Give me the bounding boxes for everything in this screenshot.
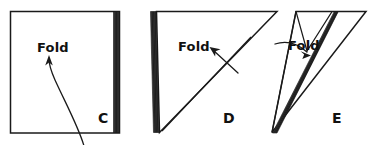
panel-label-d: D	[223, 110, 235, 126]
panel-e-fold-label: Fold	[288, 38, 320, 53]
panel-e-layer-line-3	[276, 12, 337, 132]
panel-c: Fold C	[11, 12, 120, 146]
panel-e: Fold E	[272, 12, 366, 134]
folding-instruction-figure: Fold C Fold D	[0, 0, 375, 145]
panel-c-fold-label: Fold	[37, 40, 69, 55]
panel-d-fold-label: Fold	[178, 39, 210, 54]
panel-d: Fold D	[151, 12, 278, 133]
panel-d-triangle-outline	[157, 12, 278, 133]
panel-d-fold-arrow-line	[213, 50, 238, 73]
panel-label-c: C	[98, 110, 108, 126]
figure-canvas: Fold C Fold D	[0, 0, 375, 145]
panel-label-e: E	[332, 110, 342, 126]
panel-c-fold-arrow-curve	[49, 59, 84, 145]
